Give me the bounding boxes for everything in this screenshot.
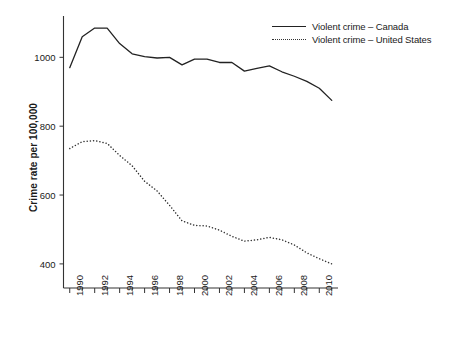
legend-line-dotted-icon	[272, 39, 306, 40]
x-tick-label: 2006	[273, 275, 284, 296]
x-tick-label: 2000	[199, 275, 210, 296]
x-tick-label: 2008	[298, 275, 309, 296]
legend-item-canada: Violent crime – Canada	[272, 20, 431, 33]
legend-label-canada: Violent crime – Canada	[312, 20, 408, 33]
x-tick-label: 1996	[149, 275, 160, 296]
y-tick-label: 400	[22, 258, 56, 269]
chart-legend: Violent crime – Canada Violent crime – U…	[272, 20, 431, 46]
violent-crime-line-chart: Crime rate per 100,000 4006008001000 199…	[0, 0, 455, 342]
legend-label-united-states: Violent crime – United States	[312, 33, 431, 46]
x-tick-label: 1992	[99, 275, 110, 296]
y-axis-title: Crime rate per 100,000	[28, 78, 39, 238]
y-tick-label: 800	[22, 121, 56, 132]
x-tick-label: 2010	[323, 275, 334, 296]
legend-line-solid-icon	[272, 26, 306, 27]
x-tick-label: 1990	[74, 275, 85, 296]
x-tick-label: 2004	[248, 275, 259, 296]
series-line-united-states	[70, 141, 332, 264]
y-tick-label: 1000	[22, 52, 56, 63]
x-tick-label: 1994	[124, 275, 135, 296]
x-tick-label: 2002	[223, 275, 234, 296]
legend-item-united-states: Violent crime – United States	[272, 33, 431, 46]
y-tick-label: 600	[22, 190, 56, 201]
x-tick-label: 1998	[174, 275, 185, 296]
